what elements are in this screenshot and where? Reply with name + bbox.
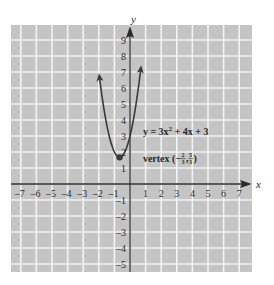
- equation-suffix: + 4x + 3: [172, 126, 208, 137]
- y-tick-label: –2: [115, 211, 126, 222]
- equation-annotation: y = 3x2 + 4x + 3: [143, 125, 209, 137]
- y-axis-label: y: [130, 13, 136, 25]
- y-tick-label: 5: [121, 99, 126, 110]
- y-tick-label: –4: [115, 243, 126, 254]
- x-tick-label: 4: [190, 188, 195, 199]
- x-tick-label: –6: [29, 188, 40, 199]
- x-tick-label: 6: [221, 188, 226, 199]
- y-tick-label: 9: [121, 35, 126, 46]
- vertex-point: [116, 154, 122, 160]
- y-tick-label: 1: [121, 163, 126, 174]
- x-tick-label: 3: [174, 188, 179, 199]
- vertex-y-numerator: 5: [189, 152, 192, 158]
- vertex-x-denominator: 3: [182, 159, 185, 165]
- y-tick-label: 6: [121, 83, 126, 94]
- y-tick-label: 7: [121, 67, 126, 78]
- vertex-annotation: vertex (− 2 3 , 5 3 ): [143, 152, 197, 165]
- x-tick-label: –5: [45, 188, 56, 199]
- parabola-chart: –7–6–5–4–3–2–11234567–5–4–3–2–1123456789…: [0, 0, 274, 285]
- y-tick-label: 4: [121, 115, 126, 126]
- y-tick-label: –3: [115, 227, 126, 238]
- y-tick-label: –5: [115, 259, 126, 270]
- x-tick-label: 5: [206, 188, 211, 199]
- equation-prefix: y = 3x: [143, 126, 169, 137]
- x-tick-label: –2: [92, 188, 103, 199]
- y-tick-label: 3: [121, 131, 126, 142]
- x-tick-label: 7: [237, 188, 242, 199]
- vertex-label-suffix: ): [194, 153, 197, 165]
- x-tick-label: –3: [76, 188, 87, 199]
- x-tick-label: –4: [61, 188, 72, 199]
- x-tick-label: 1: [143, 188, 148, 199]
- vertex-x-numerator: 2: [182, 152, 185, 158]
- x-axis-label: x: [255, 178, 261, 190]
- y-tick-label: –1: [115, 195, 126, 206]
- x-tick-label: –7: [14, 188, 25, 199]
- vertex-y-denominator: 3: [189, 159, 192, 165]
- vertex-label-prefix: vertex (−: [143, 153, 181, 165]
- x-tick-label: 2: [159, 188, 164, 199]
- y-tick-label: 8: [121, 51, 126, 62]
